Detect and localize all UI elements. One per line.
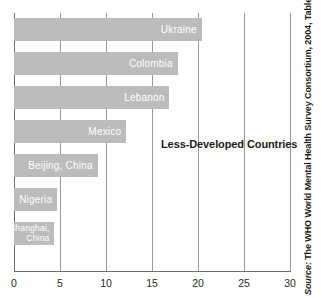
source-note-body: The WHO World Mental Health Survey Conso…	[303, 0, 313, 262]
bar-chart-figure: UkraineColombiaLebanonMexicoBeijing, Chi…	[0, 0, 328, 301]
bar-mexico[interactable]: Mexico	[14, 120, 126, 143]
bar-label: Nigeria	[19, 194, 57, 205]
bar-nigeria[interactable]: Nigeria	[14, 188, 57, 211]
bar-shanghai-china[interactable]: Shanghai,China	[14, 222, 54, 245]
x-tick-0: 0	[11, 277, 17, 289]
bar-label: Mexico	[88, 126, 126, 137]
source-note-prefix: Source:	[303, 262, 313, 295]
x-tick-25: 25	[238, 277, 250, 289]
bar-ukraine[interactable]: Ukraine	[14, 18, 202, 41]
bar-label: Lebanon	[124, 92, 169, 103]
source-note-text: Source: The WHO World Mental Health Surv…	[303, 0, 313, 295]
chart-annotation-less-developed-countries: Less-Developed Countries	[161, 138, 297, 150]
source-note: Source: The WHO World Mental Health Surv…	[313, 5, 327, 295]
x-tick-10: 10	[100, 277, 112, 289]
bar-label: Colombia	[129, 58, 178, 69]
bar-beijing-china[interactable]: Beijing, China	[14, 154, 98, 177]
bar-label: Shanghai,China	[9, 224, 53, 243]
x-axis-line	[14, 271, 291, 272]
bar-label: Ukraine	[161, 24, 202, 35]
bar-lebanon[interactable]: Lebanon	[14, 86, 169, 109]
x-tick-5: 5	[57, 277, 63, 289]
x-tick-15: 15	[146, 277, 158, 289]
bar-colombia[interactable]: Colombia	[14, 52, 178, 75]
x-tick-20: 20	[192, 277, 204, 289]
bar-label: Beijing, China	[28, 160, 98, 171]
x-tick-30: 30	[284, 277, 296, 289]
